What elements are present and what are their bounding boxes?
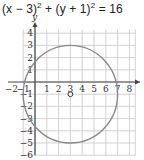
circle-graph: y−2−1123456784321−1−2−3−4−5−6: [0, 0, 144, 160]
x-tick-label: 8: [127, 84, 133, 94]
x-tick-label: 1: [44, 84, 50, 94]
y-tick-label: −5: [20, 138, 34, 148]
y-tick-label: −2: [20, 101, 33, 111]
y-axis-arrow-icon: [33, 22, 38, 27]
x-axis-arrow-icon: [135, 80, 140, 85]
y-tick-label: −6: [20, 150, 34, 160]
x-tick-label: 4: [79, 84, 85, 94]
y-tick-label: 2: [27, 53, 33, 63]
y-tick-label: −4: [20, 126, 34, 136]
y-tick-label: 4: [27, 28, 33, 38]
y-axis-label: y: [31, 12, 38, 22]
y-tick-label: −1: [20, 89, 33, 99]
x-tick-label: 5: [91, 84, 97, 94]
center-point-marker: [68, 92, 73, 97]
x-tick-label: 2: [56, 84, 62, 94]
y-tick-label: 3: [27, 40, 33, 50]
x-tick-label: 6: [103, 84, 109, 94]
